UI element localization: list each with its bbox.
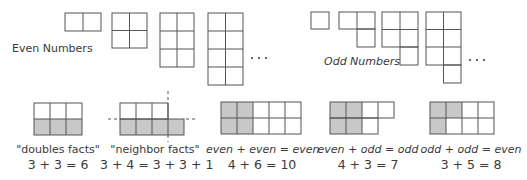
doubles-facts-title: "doubles facts"	[8, 143, 108, 157]
odd-plus-odd-caption: odd + odd = even 3 + 5 = 8	[418, 143, 524, 173]
doubles-facts-equation: 3 + 3 = 6	[8, 157, 108, 173]
even-plus-even-equation: 4 + 6 = 10	[206, 157, 318, 173]
neighbor-facts-caption: "neighbor facts" 3 + 4 = 3 + 3 + 1	[100, 143, 210, 173]
even-plus-odd-title: even + odd = odd	[316, 143, 420, 157]
odd-plus-odd-title: odd + odd = even	[418, 143, 524, 157]
doubles-facts-caption: "doubles facts" 3 + 3 = 6	[8, 143, 108, 173]
even-plus-even-caption: even + even = even 4 + 6 = 10	[206, 143, 318, 173]
odd-plus-odd-figure	[430, 102, 494, 134]
even-plus-odd-equation: 4 + 3 = 7	[316, 157, 420, 173]
neighbor-facts-title: "neighbor facts"	[100, 143, 210, 157]
even-numbers-label: Even Numbers	[12, 42, 93, 55]
even-continuation-dots	[251, 57, 267, 59]
odd-figure-1	[311, 12, 329, 29]
odd-continuation-dots	[469, 59, 485, 61]
odd-numbers-label: Odd Numbers	[324, 55, 400, 68]
neighbor-facts-equation: 3 + 4 = 3 + 3 + 1	[100, 157, 210, 173]
even-figure-4	[112, 13, 147, 48]
even-plus-even-title: even + even = even	[206, 143, 318, 157]
odd-figure-7	[426, 12, 461, 83]
neighbor-facts-figure	[108, 91, 198, 142]
even-figure-8	[208, 13, 243, 85]
even-figure-2	[65, 13, 101, 31]
odd-plus-odd-equation: 3 + 5 = 8	[418, 157, 524, 173]
even-plus-odd-figure	[330, 102, 394, 134]
even-plus-odd-caption: even + odd = odd 4 + 3 = 7	[316, 143, 420, 173]
doubles-facts-figure	[34, 103, 82, 135]
even-figure-6	[160, 13, 194, 67]
odd-figure-3	[339, 12, 375, 47]
even-plus-even-figure	[221, 102, 301, 134]
